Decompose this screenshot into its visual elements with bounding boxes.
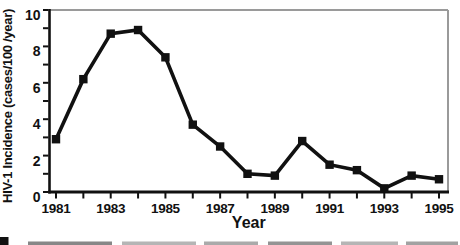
data-point-marker bbox=[243, 170, 251, 178]
x-axis-title: Year bbox=[232, 214, 266, 231]
clipped-caption-text-fragment bbox=[406, 242, 458, 245]
data-point-marker bbox=[435, 175, 443, 183]
data-point-marker bbox=[216, 142, 224, 150]
hiv-incidence-line-chart: 198119831985198719891991199319950246810Y… bbox=[0, 0, 460, 245]
data-point-marker bbox=[325, 161, 333, 169]
data-point-marker bbox=[134, 26, 142, 34]
y-axis-title: HIV-1 Incidence (cases/100 /year) bbox=[0, 9, 15, 203]
clipped-caption-text-fragment bbox=[122, 242, 196, 245]
x-tick-label: 1981 bbox=[42, 201, 72, 216]
data-point-marker bbox=[107, 29, 115, 37]
x-tick-label: 1995 bbox=[425, 201, 455, 216]
clipped-caption-text-fragment bbox=[268, 242, 332, 245]
clipped-caption-text-fragment bbox=[341, 242, 398, 245]
y-tick-label: 8 bbox=[33, 43, 41, 59]
y-tick-label: 10 bbox=[25, 7, 41, 23]
data-point-marker bbox=[189, 120, 197, 128]
x-tick-label: 1983 bbox=[96, 201, 126, 216]
data-point-marker bbox=[407, 171, 415, 179]
data-line bbox=[56, 30, 439, 188]
data-point-marker bbox=[380, 184, 388, 192]
caption-square-marker bbox=[0, 237, 9, 245]
data-point-marker bbox=[353, 166, 361, 174]
data-point-marker bbox=[271, 171, 279, 179]
y-tick-label: 0 bbox=[33, 189, 41, 205]
data-point-marker bbox=[79, 75, 87, 83]
x-tick-label: 1985 bbox=[151, 201, 181, 216]
clipped-caption-text-fragment bbox=[28, 242, 112, 245]
y-tick-label: 4 bbox=[33, 116, 41, 132]
x-tick-label: 1987 bbox=[206, 201, 235, 216]
scanned-chart-figure: 198119831985198719891991199319950246810Y… bbox=[0, 0, 460, 245]
y-tick-label: 6 bbox=[33, 80, 41, 96]
x-tick-label: 1993 bbox=[370, 201, 400, 216]
data-point-marker bbox=[161, 53, 169, 61]
data-point-marker bbox=[298, 137, 306, 145]
clipped-caption-text-fragment bbox=[204, 242, 258, 245]
data-point-marker bbox=[52, 135, 60, 143]
x-tick-label: 1991 bbox=[315, 201, 345, 216]
y-tick-label: 2 bbox=[33, 153, 41, 169]
